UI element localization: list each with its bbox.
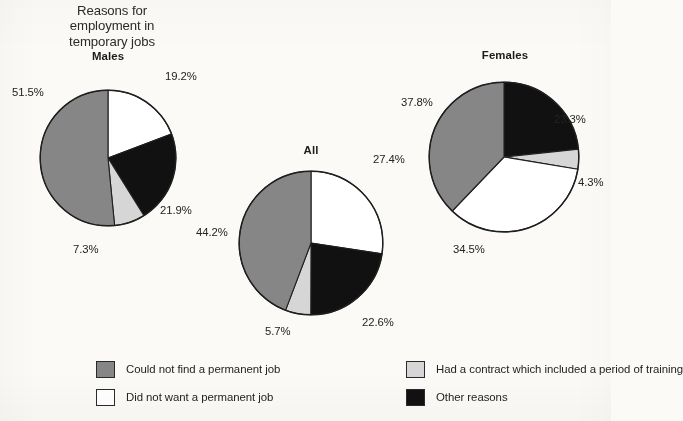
legend-swatch-had-contract [406, 361, 425, 378]
pie-label-females-had-contract: 4.3% [578, 176, 604, 188]
legend-swatch-other-reasons [406, 389, 425, 406]
pie-label-males-could-not-find: 51.5% [12, 86, 44, 98]
figure-title-line-1: Reasons for [22, 3, 202, 18]
pie-heading-males: Males [68, 50, 148, 62]
legend-label-could-not-find: Could not find a permanent job [126, 363, 280, 375]
legend-label-had-contract: Had a contract which included a period o… [436, 363, 683, 375]
pie-slice[interactable] [311, 243, 382, 315]
pie-label-males-had-contract: 7.3% [73, 243, 99, 255]
pie-slices-males [40, 90, 176, 226]
legend: Could not find a permanent job Had a con… [96, 360, 601, 414]
pie-heading-all: All [271, 144, 351, 156]
pie-slice[interactable] [40, 90, 114, 226]
pie-label-females-could-not-find: 37.8% [401, 96, 433, 108]
pie-svg-females [427, 80, 581, 234]
legend-item-other-reasons[interactable]: Other reasons [406, 388, 508, 406]
pie-heading-females: Females [465, 49, 545, 61]
figure-title: Reasons for employment in temporary jobs [22, 3, 202, 49]
pie-label-all-other-reasons: 22.6% [362, 316, 394, 328]
legend-item-had-contract[interactable]: Had a contract which included a period o… [406, 360, 683, 378]
pie-svg-all [237, 169, 385, 317]
pie-label-females-did-not-want: 34.5% [453, 243, 485, 255]
pie-label-all-had-contract: 5.7% [265, 325, 291, 337]
pie-slices-all [239, 171, 383, 315]
legend-label-other-reasons: Other reasons [436, 391, 508, 403]
pie-slices-females [429, 82, 579, 232]
pie-label-males-did-not-want: 19.2% [165, 70, 197, 82]
legend-swatch-did-not-want [96, 389, 115, 406]
pie-label-males-other-reasons: 21.9% [160, 204, 192, 216]
legend-swatch-could-not-find [96, 361, 115, 378]
legend-item-could-not-find[interactable]: Could not find a permanent job [96, 360, 280, 378]
pie-svg-males [38, 88, 178, 228]
figure-title-line-3: temporary jobs [22, 34, 202, 49]
legend-label-did-not-want: Did not want a permanent job [126, 391, 273, 403]
pie-slice[interactable] [311, 171, 383, 254]
figure-title-line-2: employment in [22, 18, 202, 33]
pie-label-females-other-reasons: 23.3% [554, 113, 586, 125]
legend-item-did-not-want[interactable]: Did not want a permanent job [96, 388, 273, 406]
pie-label-all-did-not-want: 27.4% [373, 153, 405, 165]
pie-label-all-could-not-find: 44.2% [196, 226, 228, 238]
